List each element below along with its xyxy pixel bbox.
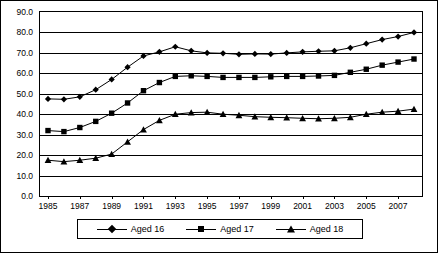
- legend-item-aged-17: Aged 17: [186, 224, 254, 234]
- x-tick-mark: [112, 196, 113, 199]
- x-tick-mark: [334, 196, 335, 199]
- gridline: [40, 176, 422, 177]
- x-tick-label: 1997: [227, 201, 251, 211]
- x-tick-mark: [239, 196, 240, 199]
- x-tick-label: 2005: [354, 201, 378, 211]
- x-tick-mark: [398, 196, 399, 199]
- x-tick-mark: [303, 196, 304, 199]
- x-tick-label: 2007: [386, 201, 410, 211]
- y-tick-label: 70.0: [0, 49, 33, 57]
- square-marker-icon: [198, 226, 204, 232]
- gridline: [40, 53, 422, 54]
- legend-line-aged-16: [97, 229, 127, 230]
- series-aged-16: [45, 29, 417, 102]
- legend-label-aged-18: Aged 18: [310, 224, 344, 234]
- legend-line-aged-18: [276, 229, 306, 230]
- gridline: [40, 155, 422, 156]
- x-tick-mark: [48, 196, 49, 199]
- x-tick-label: 1985: [36, 201, 60, 211]
- x-tick-mark: [80, 196, 81, 199]
- y-tick-label: 10.0: [0, 172, 33, 180]
- x-tick-mark: [271, 196, 272, 199]
- diamond-marker-icon: [107, 225, 115, 233]
- gridline: [40, 32, 422, 33]
- triangle-marker-icon: [287, 226, 295, 233]
- x-tick-label: 1989: [100, 201, 124, 211]
- legend-item-aged-18: Aged 18: [276, 224, 344, 234]
- gridline: [40, 114, 422, 115]
- legend-label-aged-16: Aged 16: [131, 224, 165, 234]
- series-aged-17: [45, 56, 416, 134]
- y-tick-label: 40.0: [0, 110, 33, 118]
- plot-area: [39, 11, 423, 197]
- chart-container: 0.010.020.030.040.050.060.070.080.090.0 …: [0, 0, 438, 253]
- y-tick-label: 50.0: [0, 90, 33, 98]
- x-tick-mark: [207, 196, 208, 199]
- series-layer: [40, 12, 422, 196]
- y-tick-label: 90.0: [0, 8, 33, 16]
- x-tick-label: 1999: [259, 201, 283, 211]
- chart-legend: Aged 16 Aged 17 Aged 18: [77, 219, 363, 239]
- y-tick-label: 60.0: [0, 69, 33, 77]
- legend-item-aged-16: Aged 16: [97, 224, 165, 234]
- x-tick-label: 2003: [322, 201, 346, 211]
- x-tick-label: 1991: [131, 201, 155, 211]
- x-tick-label: 1995: [195, 201, 219, 211]
- x-tick-mark: [175, 196, 176, 199]
- gridline: [40, 94, 422, 95]
- gridline: [40, 135, 422, 136]
- y-tick-label: 30.0: [0, 131, 33, 139]
- x-tick-mark: [143, 196, 144, 199]
- gridline: [40, 73, 422, 74]
- x-tick-mark: [366, 196, 367, 199]
- x-tick-label: 1987: [68, 201, 92, 211]
- x-tick-label: 2001: [291, 201, 315, 211]
- y-tick-label: 20.0: [0, 151, 33, 159]
- legend-label-aged-17: Aged 17: [220, 224, 254, 234]
- y-tick-label: 80.0: [0, 28, 33, 36]
- y-tick-label: 0.0: [0, 192, 33, 200]
- legend-line-aged-17: [186, 229, 216, 230]
- x-tick-label: 1993: [163, 201, 187, 211]
